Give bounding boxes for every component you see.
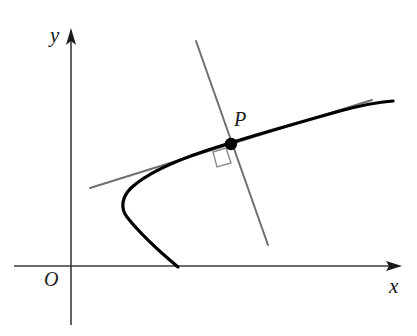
- geometry-diagram: [0, 0, 417, 336]
- point-p-dot: [225, 138, 237, 150]
- right-angle-marker: [213, 148, 231, 167]
- figure-canvas: y x O P: [0, 0, 417, 336]
- x-axis-label: x: [389, 274, 398, 299]
- y-axis: [66, 28, 76, 325]
- origin-label: O: [44, 268, 58, 291]
- point-p-label: P: [234, 108, 246, 131]
- x-axis: [14, 261, 402, 271]
- y-axis-label: y: [50, 23, 59, 48]
- parabola-curve: [123, 101, 393, 267]
